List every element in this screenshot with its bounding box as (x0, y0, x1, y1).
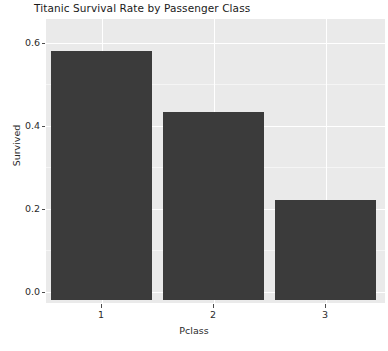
xtick-mark-1 (101, 304, 102, 308)
ytick-mark-0.2 (42, 209, 45, 210)
xtick-mark-3 (325, 304, 326, 308)
ytick-label-0.0: 0.0 (0, 286, 40, 297)
y-axis-title: Survived (11, 101, 22, 191)
ytick-label-0.6: 0.6 (0, 37, 40, 48)
plot-panel (46, 19, 385, 303)
gridline-y-0.6 (46, 43, 385, 44)
chart-title: Titanic Survival Rate by Passenger Class (34, 2, 250, 14)
ytick-mark-0.0 (42, 292, 45, 293)
xtick-label-2: 2 (193, 309, 233, 320)
x-axis-title: Pclass (0, 325, 388, 336)
ytick-mark-0.4 (42, 126, 45, 127)
bar-pclass-1 (51, 51, 152, 300)
ytick-mark-0.6 (42, 43, 45, 44)
xtick-label-1: 1 (81, 309, 121, 320)
xtick-label-3: 3 (305, 309, 345, 320)
bar-chart-figure: Titanic Survival Rate by Passenger Class… (0, 0, 388, 351)
bar-pclass-3 (275, 200, 376, 300)
ytick-label-0.2: 0.2 (0, 203, 40, 214)
bar-pclass-2 (163, 112, 264, 300)
xtick-mark-2 (213, 304, 214, 308)
